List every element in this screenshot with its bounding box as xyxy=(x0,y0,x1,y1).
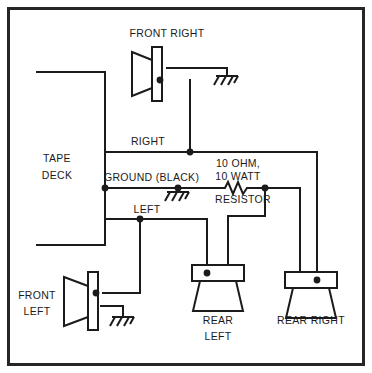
rear-left-terminal xyxy=(204,270,211,277)
junction-ground-bus xyxy=(102,185,109,192)
rear-left-cone xyxy=(193,281,243,311)
left-to-front-left-wire xyxy=(103,219,140,293)
speaker-rear-left xyxy=(192,265,244,311)
schematic-diagram: FRONT RIGHT TAPE DECK RIGHT GROUND (BLAC… xyxy=(0,0,372,373)
front-right-ground-lead xyxy=(167,68,227,76)
front-right-terminal xyxy=(157,77,164,84)
front-left-terminal xyxy=(93,290,100,297)
speaker-rear-right xyxy=(285,272,337,318)
junction-left-channel xyxy=(137,216,144,223)
front-left-cone xyxy=(64,277,88,326)
label-rear-left-line1: REAR xyxy=(203,314,233,326)
label-front-left-line1: FRONT xyxy=(18,289,56,301)
rear-right-body xyxy=(285,272,337,288)
label-ground-wire: GROUND (BLACK) xyxy=(104,171,199,183)
label-resistor-line2: 10 WATT xyxy=(215,170,261,182)
junction-ground-chassis xyxy=(175,185,182,192)
label-resistor-line3: RESISTOR xyxy=(215,193,271,205)
speaker-front-left xyxy=(64,272,99,330)
junction-ground-rear xyxy=(262,185,269,192)
label-rear-right: REAR RIGHT xyxy=(277,314,345,326)
front-left-ground-lead xyxy=(101,306,123,317)
label-rear-left-line2: LEFT xyxy=(205,330,232,342)
front-left-body xyxy=(88,272,98,330)
rear-left-body xyxy=(192,265,244,281)
label-left-wire: LEFT xyxy=(134,203,161,215)
front-right-body xyxy=(152,47,162,101)
rear-right-terminal xyxy=(314,277,321,284)
speaker-front-right xyxy=(132,47,163,101)
ground-icon-front-right xyxy=(214,76,238,85)
label-front-left-line2: LEFT xyxy=(24,305,51,317)
label-tape-deck-line2: DECK xyxy=(42,169,72,181)
ground-icon-front-left xyxy=(110,317,134,326)
label-tape-deck-line1: TAPE xyxy=(43,152,71,164)
label-front-right: FRONT RIGHT xyxy=(130,27,205,39)
junction-right-channel xyxy=(187,149,194,156)
label-right-wire: RIGHT xyxy=(131,135,165,147)
front-right-cone xyxy=(132,52,152,96)
circuit-canvas: FRONT RIGHT TAPE DECK RIGHT GROUND (BLAC… xyxy=(0,0,372,373)
label-resistor-line1: 10 OHM, xyxy=(216,157,260,169)
